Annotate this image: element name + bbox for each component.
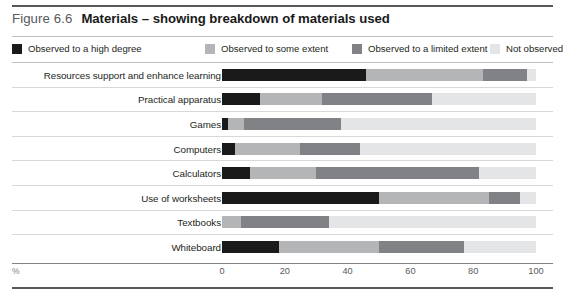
axis-tick-label: 80	[468, 266, 478, 276]
legend-label: Observed to a high degree	[28, 43, 142, 54]
legend-swatch-icon	[205, 44, 215, 54]
figure-number: Figure 6.6	[12, 11, 72, 26]
legend-swatch-icon	[490, 44, 500, 54]
axis-tick-label: 60	[405, 266, 415, 276]
bar-segment	[329, 216, 536, 228]
stacked-bar	[222, 69, 536, 81]
bar-segment	[241, 216, 329, 228]
chart-row: Resources support and enhance learning	[12, 63, 553, 88]
figure-title: Materials – showing breakdown of materia…	[81, 11, 389, 26]
bar-segment	[479, 167, 536, 179]
chart-row: Games	[12, 112, 553, 137]
axis-tick-label: 40	[342, 266, 352, 276]
axis-tick-label: 20	[280, 266, 290, 276]
bar-segment	[316, 167, 479, 179]
figure-container: Figure 6.6 Materials – showing breakdown…	[0, 0, 565, 294]
legend-label: Observed to some extent	[221, 43, 328, 54]
chart-row: Textbooks	[12, 211, 553, 236]
bar-segment	[235, 143, 301, 155]
x-axis: % 020406080100	[12, 265, 553, 279]
bar-segment	[341, 118, 536, 130]
bar-segment	[222, 167, 250, 179]
chart-row: Practical apparatus	[12, 88, 553, 113]
chart-row: Whiteboard	[12, 235, 553, 260]
stacked-bar	[222, 118, 536, 130]
legend-item: Not observed	[490, 43, 563, 54]
bar-segment	[222, 192, 379, 204]
axis-line	[12, 263, 553, 264]
bar-segment	[483, 69, 527, 81]
bar-segment	[228, 118, 244, 130]
bar-segment	[432, 93, 536, 105]
bar-segment	[360, 143, 536, 155]
legend-label: Observed to a limited extent	[368, 43, 487, 54]
bar-segment	[527, 69, 536, 81]
axis-tick-label: 100	[528, 266, 543, 276]
bar-segment	[489, 192, 520, 204]
bar-category-label: Resources support and enhance learning	[44, 69, 221, 80]
bar-segment	[244, 118, 341, 130]
legend-swatch-icon	[352, 44, 362, 54]
stacked-bar	[222, 143, 536, 155]
stacked-bar	[222, 167, 536, 179]
bar-category-label: Computers	[174, 143, 221, 154]
bar-segment	[379, 241, 464, 253]
title-divider	[12, 36, 553, 37]
legend-label: Not observed	[506, 43, 563, 54]
bar-segment	[366, 69, 482, 81]
bar-category-label: Textbooks	[177, 217, 221, 228]
bar-category-label: Calculators	[173, 168, 221, 179]
figure-header: Figure 6.6 Materials – showing breakdown…	[12, 11, 390, 26]
top-divider	[12, 5, 553, 7]
bar-segment	[260, 93, 323, 105]
axis-tick-label: 0	[219, 266, 224, 276]
bar-category-label: Whiteboard	[171, 242, 221, 253]
stacked-bar	[222, 93, 536, 105]
legend-item: Observed to some extent	[205, 43, 328, 54]
bar-segment	[222, 93, 260, 105]
bar-segment	[222, 69, 366, 81]
bar-segment	[250, 167, 316, 179]
bar-segment	[222, 241, 279, 253]
bar-category-label: Games	[190, 118, 221, 129]
bar-category-label: Practical apparatus	[138, 94, 221, 105]
bar-segment	[222, 216, 241, 228]
bar-segment	[520, 192, 536, 204]
bar-segment	[464, 241, 536, 253]
legend-item: Observed to a limited extent	[352, 43, 487, 54]
axis-unit-label: %	[12, 266, 20, 276]
stacked-bar	[222, 216, 536, 228]
chart-legend: Observed to a high degreeObserved to som…	[12, 43, 553, 59]
bar-segment	[322, 93, 432, 105]
legend-swatch-icon	[12, 44, 22, 54]
bar-segment	[279, 241, 379, 253]
stacked-bar	[222, 241, 536, 253]
bar-segment	[379, 192, 489, 204]
bar-segment	[300, 143, 360, 155]
chart-plot-area: Resources support and enhance learningPr…	[12, 63, 553, 263]
bar-category-label: Use of worksheets	[141, 192, 221, 203]
stacked-bar	[222, 192, 536, 204]
chart-row: Use of worksheets	[12, 186, 553, 211]
chart-row: Computers	[12, 137, 553, 162]
legend-item: Observed to a high degree	[12, 43, 142, 54]
bottom-divider	[12, 287, 553, 289]
bar-segment	[222, 143, 235, 155]
chart-row: Calculators	[12, 161, 553, 186]
